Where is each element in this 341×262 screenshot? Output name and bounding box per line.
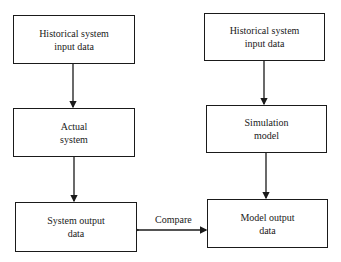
box-model-output-data: Model output data [207, 199, 328, 248]
box-simulation-model: Simulation model [206, 105, 327, 153]
box-system-output-data: System output data [15, 202, 137, 252]
box-historical-input-right: Historical system input data [204, 13, 325, 61]
box-historical-input-left: Historical system input data [13, 15, 135, 64]
box-actual-system: Actual system [13, 108, 135, 157]
box-label: System output data [47, 214, 105, 240]
box-label: Historical system input data [39, 27, 109, 53]
compare-label: Compare [155, 214, 192, 225]
box-label: Simulation model [245, 116, 289, 142]
box-label: Historical system input data [230, 24, 300, 50]
box-label: Actual system [60, 120, 88, 146]
box-label: Model output data [240, 211, 294, 237]
